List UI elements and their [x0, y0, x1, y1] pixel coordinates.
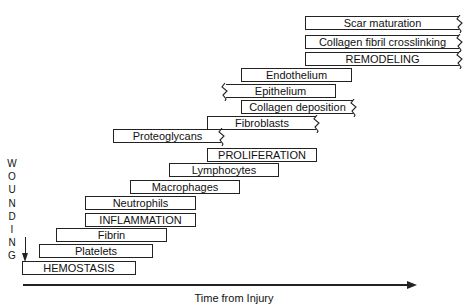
right-arrow-icon	[407, 281, 417, 289]
phase-bar-hemostasis: HEMOSTASIS	[22, 261, 136, 275]
continuation-squiggle-icon	[313, 115, 321, 133]
continuation-squiggle-icon	[456, 51, 464, 69]
wounding-letter: D	[6, 210, 18, 223]
phase-bar-label: Lymphocytes	[192, 164, 256, 176]
continuation-squiggle-icon	[218, 128, 226, 146]
continuation-squiggle-icon	[456, 34, 464, 52]
phase-bar-macrophages: Macrophages	[130, 180, 240, 194]
phase-bar-label: HEMOSTASIS	[43, 262, 114, 274]
phase-bar-fibrin: Fibrin	[56, 228, 167, 242]
time-axis	[23, 284, 409, 286]
wounding-letter: N	[6, 197, 18, 210]
phase-bar-label: Proteoglycans	[133, 130, 203, 142]
phase-bar-label: Epithelium	[255, 85, 306, 97]
wounding-letter: I	[6, 223, 18, 236]
phase-bar-label: PROLIFERATION	[218, 149, 306, 161]
continuation-squiggle-icon	[221, 83, 229, 101]
wounding-letter: O	[6, 170, 18, 183]
wounding-letter: W	[6, 157, 18, 170]
phase-bar-epithelium: Epithelium	[226, 84, 336, 98]
continuation-squiggle-icon	[456, 15, 464, 33]
phase-bar-label: Fibroblasts	[235, 117, 289, 129]
continuation-squiggle-icon	[350, 99, 358, 117]
phase-bar-label: Collagen fibril crosslinking	[319, 36, 446, 48]
phase-bar-label: Neutrophils	[113, 197, 169, 209]
phase-bar-label: Platelets	[75, 245, 117, 257]
phase-bar-remodeling: REMODELING	[305, 52, 459, 66]
wounding-letter: U	[6, 183, 18, 196]
x-axis-label: Time from Injury	[0, 292, 468, 304]
wounding-letter: G	[6, 249, 18, 262]
phase-bar-endothelium: Endothelium	[241, 68, 352, 82]
phase-bar-label: Fibrin	[98, 229, 126, 241]
phase-bar-label: Scar maturation	[344, 17, 422, 29]
phase-bar-platelets: Platelets	[39, 244, 153, 258]
wounding-vertical-label: WOUNDING	[6, 157, 18, 263]
phase-bar-label: REMODELING	[346, 53, 420, 65]
phase-bar-inflammation: INFLAMMATION	[85, 213, 196, 227]
phase-bar-label: Endothelium	[266, 69, 327, 81]
phase-bar-collagen-deposition: Collagen deposition	[241, 100, 353, 114]
phase-bar-label: Macrophages	[152, 181, 219, 193]
phase-bar-scar-maturation: Scar maturation	[305, 16, 459, 30]
phase-bar-label: Collagen deposition	[249, 101, 346, 113]
phase-bar-collagen-fibril-crosslinking: Collagen fibril crosslinking	[305, 35, 459, 49]
wounding-letter: N	[6, 236, 18, 249]
phase-bar-label: INFLAMMATION	[99, 214, 181, 226]
phase-bar-lymphocytes: Lymphocytes	[169, 163, 279, 177]
phase-bar-proteoglycans: Proteoglycans	[113, 129, 221, 143]
phase-bar-neutrophils: Neutrophils	[85, 196, 196, 210]
phase-bar-proliferation: PROLIFERATION	[207, 148, 317, 162]
